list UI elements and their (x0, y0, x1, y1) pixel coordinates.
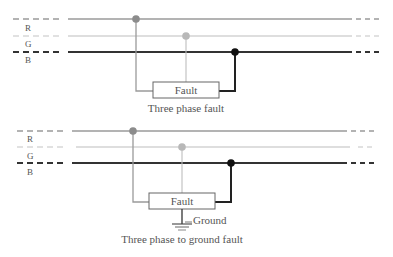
caption-three-phase-fault: Three phase fault (148, 102, 224, 114)
wire-b-to-fault (215, 163, 231, 202)
phase-label-g: G (27, 151, 34, 161)
junction-dot-b (227, 159, 235, 167)
junction-dot-r (132, 15, 140, 23)
wire-b-to-fault (219, 52, 235, 91)
three-phase-fault-diagram: R G B Fault Three phase fault (13, 15, 382, 114)
fault-diagrams: R G B Fault Three phase fault (0, 0, 393, 257)
phase-label-b: B (25, 55, 31, 65)
fault-box-label: Fault (175, 84, 198, 96)
ground-icon (172, 209, 192, 230)
phase-label-b: B (27, 167, 33, 177)
caption-three-phase-to-ground-fault: Three phase to ground fault (121, 233, 243, 245)
junction-dot-g (178, 143, 186, 151)
fault-box-label: Fault (171, 195, 194, 207)
junction-dot-b (231, 48, 239, 56)
three-phase-to-ground-fault-diagram: R G B Fault Ground Three phase to ground… (17, 127, 378, 245)
phase-label-r: R (25, 23, 31, 33)
wire-r-to-fault (133, 131, 149, 202)
junction-dot-g (182, 32, 190, 40)
wire-r-to-fault (136, 19, 153, 91)
phase-label-g: G (25, 39, 32, 49)
phase-label-r: R (27, 134, 33, 144)
junction-dot-r (129, 127, 137, 135)
ground-label: Ground (193, 214, 227, 226)
